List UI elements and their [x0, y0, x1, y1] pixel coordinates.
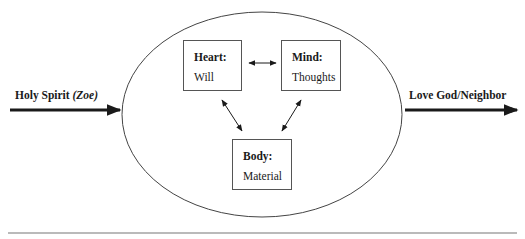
input-label-text: Holy Spirit: [15, 89, 70, 101]
output-label: Love God/Neighbor: [409, 89, 506, 101]
body-box: Body: Material: [232, 139, 292, 190]
heart-box: Heart: Will: [183, 40, 242, 91]
mind-box: Mind: Thoughts: [281, 40, 341, 91]
heart-body-arrow: [222, 100, 242, 131]
heart-subtitle: Will: [194, 71, 214, 83]
mind-subtitle: Thoughts: [292, 71, 335, 83]
input-label-italic: (Zoe): [73, 89, 99, 101]
heart-title: Heart:: [194, 51, 227, 63]
mind-title: Mind:: [292, 51, 323, 63]
diagram-canvas: [0, 0, 525, 239]
mind-body-arrow: [282, 100, 301, 131]
input-label: Holy Spirit (Zoe): [15, 89, 98, 101]
body-subtitle: Material: [243, 170, 282, 182]
output-label-text: Love God/Neighbor: [409, 89, 506, 101]
body-title: Body:: [243, 150, 272, 162]
